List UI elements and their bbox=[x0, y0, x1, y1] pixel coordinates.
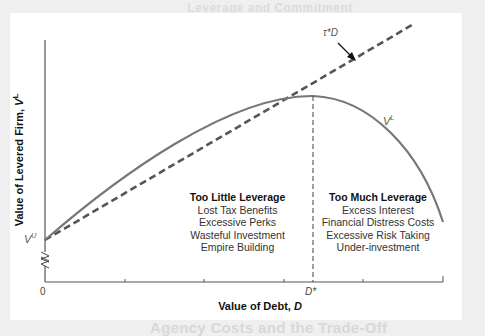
dstar-tick-label: D* bbox=[305, 286, 316, 297]
x-axis-ticks bbox=[125, 276, 443, 282]
region-item: Excessive Risk Taking bbox=[317, 229, 439, 242]
region-item: Excessive Perks bbox=[180, 216, 295, 229]
region-item: Empire Building bbox=[180, 241, 295, 254]
vl-curve-label: VL bbox=[383, 114, 394, 127]
region-title: Too Much Leverage bbox=[317, 191, 439, 204]
tau-d-label: τ*D bbox=[323, 27, 338, 38]
too-little-leverage-block: Too Little Leverage Lost Tax Benefits Ex… bbox=[180, 191, 295, 254]
arrow-icon bbox=[338, 43, 356, 61]
origin-tick-label: 0 bbox=[40, 286, 46, 297]
axis-break-icon bbox=[38, 252, 52, 268]
region-item: Excess Interest bbox=[317, 204, 439, 217]
too-much-leverage-block: Too Much Leverage Excess Interest Financ… bbox=[317, 191, 439, 254]
region-item: Wasteful Investment bbox=[180, 229, 295, 242]
region-item: Financial Distress Costs bbox=[317, 216, 439, 229]
y-axis-label: Value of Levered Firm, VL bbox=[11, 94, 25, 227]
x-axis-label: Value of Debt, D bbox=[218, 300, 302, 312]
region-item: Under-investment bbox=[317, 241, 439, 254]
vu-label: VU bbox=[24, 232, 36, 245]
background-subheading-faded: Agency Costs and the Trade-Off bbox=[150, 319, 480, 336]
region-title: Too Little Leverage bbox=[180, 191, 295, 204]
region-item: Lost Tax Benefits bbox=[180, 204, 295, 217]
